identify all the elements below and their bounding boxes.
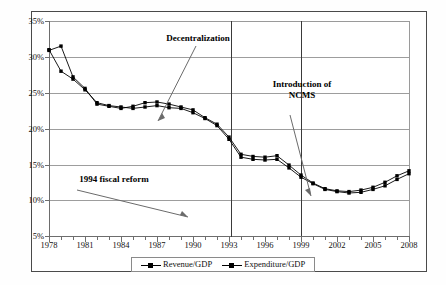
annotation-decentralization: Decentralization bbox=[146, 33, 250, 44]
decentralization-arrow bbox=[158, 46, 196, 121]
legend: Revenue/GDP Expenditure/GDP bbox=[131, 257, 315, 272]
ncms-arrow bbox=[290, 115, 311, 196]
chart-root: 35% 30% 25% 20% 15% 10% 5% 1978198119841… bbox=[0, 0, 446, 285]
fiscal-reform-arrow bbox=[77, 190, 188, 217]
legend-entry-revenue: Revenue/GDP bbox=[141, 259, 212, 269]
legend-label-revenue: Revenue/GDP bbox=[163, 259, 212, 269]
legend-marker-expenditure-icon bbox=[222, 262, 242, 269]
decentralization-arrowhead bbox=[158, 113, 165, 121]
legend-label-expenditure: Expenditure/GDP bbox=[244, 259, 305, 269]
legend-marker-revenue-icon bbox=[141, 262, 161, 269]
legend-entry-expenditure: Expenditure/GDP bbox=[222, 259, 305, 269]
ncms-arrowhead bbox=[305, 188, 311, 196]
annotation-ncms-line2: NCMS bbox=[256, 90, 348, 101]
annotation-ncms-line1: Introduction of bbox=[256, 79, 348, 90]
annotation-fiscal-reform: 1994 fiscal reform bbox=[54, 174, 174, 185]
